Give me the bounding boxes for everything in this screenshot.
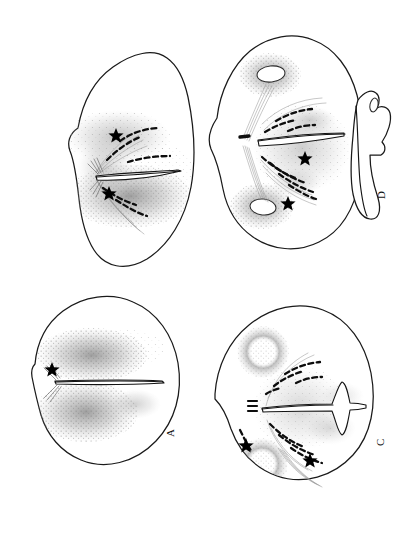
figure-canvas: D A (0, 0, 400, 548)
panel-c-label: C (374, 439, 386, 446)
panel-a-label: A (164, 429, 176, 437)
panel-a: A (32, 296, 180, 464)
figure-plate: D A (0, 0, 400, 548)
panel-d-hilum-bar (240, 136, 249, 137)
panel-d-label: D (375, 191, 387, 199)
